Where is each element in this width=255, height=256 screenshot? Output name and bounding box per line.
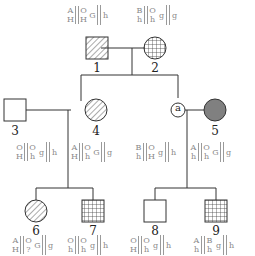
- individual-9-symbol: [205, 200, 227, 222]
- individual-8-symbol: [144, 200, 166, 222]
- individual-4-label: 4: [88, 124, 104, 138]
- genotype-a: BO hH gh: [135, 143, 177, 161]
- individual-3-symbol: [4, 99, 26, 121]
- genotype-4: AO Hh Gg: [71, 143, 113, 161]
- genotype-6: AO H? Gg: [12, 236, 54, 254]
- genotype-5: AO hh Gg: [190, 143, 232, 161]
- individual-2-symbol: [144, 37, 166, 59]
- individual-1-label: 1: [89, 61, 105, 75]
- genotype-9: AB hh gh: [193, 236, 235, 254]
- genotype-2: BO hh gg: [136, 6, 178, 24]
- genotype-7: OO hh gh: [67, 236, 109, 254]
- individual-7-symbol: [82, 200, 104, 222]
- individual-3-label: 3: [7, 124, 23, 138]
- individual-4-symbol: [85, 99, 107, 121]
- individual-a-label: a: [170, 102, 186, 113]
- genotype-8: OO Hh gh: [130, 236, 172, 254]
- individual-6-symbol: [25, 200, 47, 222]
- genotype-3: OO Hh gh: [16, 143, 58, 161]
- individual-5-symbol: [204, 99, 226, 121]
- individual-5-label: 5: [207, 124, 223, 138]
- genotype-1: AO HH Gh: [67, 6, 109, 24]
- individual-2-label: 2: [147, 61, 163, 75]
- individual-1-symbol: [86, 37, 108, 59]
